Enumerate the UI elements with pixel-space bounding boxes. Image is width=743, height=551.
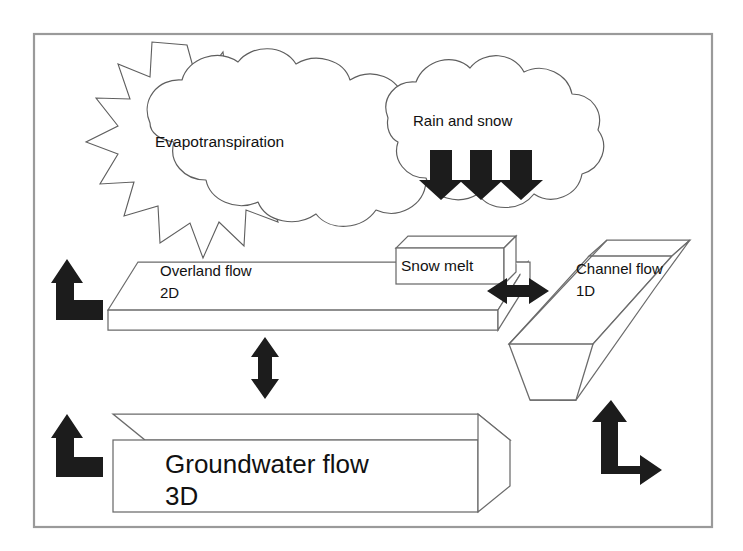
label-channel-flow: Channel flow xyxy=(576,260,663,277)
double-arrow-vertical-icon xyxy=(251,337,279,399)
hydrological-model-diagram: Evapotranspiration Rain and snow Snow me… xyxy=(0,0,743,551)
label-evapotranspiration: Evapotranspiration xyxy=(155,133,284,150)
label-groundwater-flow-dimension: 3D xyxy=(165,481,198,511)
snow-melt-top-face xyxy=(396,236,516,248)
label-groundwater-flow: Groundwater flow xyxy=(165,449,369,479)
label-rain-and-snow: Rain and snow xyxy=(413,112,512,129)
label-snow-melt: Snow melt xyxy=(401,257,474,274)
bent-arrow-up-icon-groundwater xyxy=(51,414,103,477)
bent-double-arrow-icon xyxy=(592,400,662,485)
label-overland-flow: Overland flow xyxy=(160,262,252,279)
label-overland-flow-dimension: 2D xyxy=(160,284,179,301)
overland-front-face xyxy=(108,310,498,330)
precipitation-arrow-group xyxy=(419,150,543,200)
diagram-canvas: Evapotranspiration Rain and snow Snow me… xyxy=(0,0,743,551)
groundwater-side-face xyxy=(478,414,510,512)
label-channel-flow-dimension: 1D xyxy=(576,282,595,299)
groundwater-top-face xyxy=(113,414,510,440)
bent-arrow-up-icon-overland xyxy=(51,259,103,320)
